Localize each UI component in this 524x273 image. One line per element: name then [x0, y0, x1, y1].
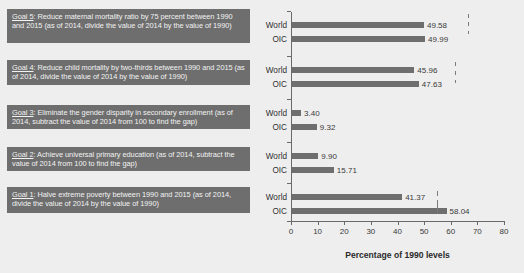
category-label-oic: OIC: [243, 207, 287, 216]
goal-description-text: : Reduce maternal mortality ratio by 75 …: [12, 12, 233, 30]
y-axis-group-tick: [287, 11, 291, 12]
goal-number-label: Goal 1: [12, 190, 33, 199]
bar-value-label: 47.63: [422, 80, 442, 89]
bar-goal-5-oic: [292, 36, 425, 42]
scan-artifact-mark: [437, 191, 438, 196]
goal-description-text: : Eliminate the gender disparity in seco…: [12, 108, 233, 126]
x-tick-label-70: 70: [473, 227, 482, 236]
goal-number-label: Goal 5: [12, 12, 33, 21]
goal-number-label: Goal 2: [12, 150, 33, 159]
y-axis-group-tick: [287, 56, 291, 57]
bar-goal-3-oic: [292, 124, 317, 130]
scan-artifact-mark: [437, 200, 438, 214]
x-tick-label-10: 10: [313, 227, 322, 236]
goal-description-text: : Reduce child mortality by two-thirds b…: [12, 63, 245, 81]
x-tick-40: [398, 221, 399, 225]
bar-value-label: 58.04: [450, 207, 470, 216]
x-tick-60: [451, 221, 452, 225]
goal-description-goal-3: Goal 3: Eliminate the gender disparity i…: [7, 105, 250, 129]
bar-goal-1-oic: [292, 208, 447, 214]
category-label-oic: OIC: [243, 35, 287, 44]
x-tick-30: [371, 221, 372, 225]
category-label-oic: OIC: [243, 80, 287, 89]
y-axis-group-tick: [287, 99, 291, 100]
scan-artifact-mark: [455, 80, 456, 83]
bar-value-label: 49.58: [427, 21, 447, 30]
x-tick-80: [504, 221, 505, 225]
chart-figure: Goal 5: Reduce maternal mortality ratio …: [0, 0, 524, 273]
scan-artifact-mark: [468, 31, 469, 34]
scan-artifact-mark: [468, 22, 469, 26]
bar-value-label: 15.71: [337, 166, 357, 175]
bar-goal-4-oic: [292, 81, 419, 87]
bar-goal-1-world: [292, 194, 402, 200]
goal-description-text: : Achieve universal primary education (a…: [12, 150, 235, 168]
y-axis-line: [291, 12, 292, 221]
bar-value-label: 9.32: [320, 123, 336, 132]
category-label-world: World: [243, 21, 287, 30]
category-label-oic: OIC: [243, 123, 287, 132]
goal-number-label: Goal 3: [12, 108, 33, 117]
bar-value-label: 49.99: [428, 35, 448, 44]
category-label-world: World: [243, 109, 287, 118]
bar-goal-3-world: [292, 110, 301, 116]
x-tick-label-50: 50: [420, 227, 429, 236]
y-axis-group-tick: [287, 142, 291, 143]
x-tick-label-0: 0: [289, 227, 293, 236]
x-tick-20: [344, 221, 345, 225]
bar-value-label: 41.37: [405, 193, 425, 202]
scan-artifact-mark: [468, 14, 469, 18]
scan-artifact-mark: [455, 71, 456, 75]
bar-goal-2-world: [292, 153, 318, 159]
x-axis-title: Percentage of 1990 levels: [291, 250, 504, 260]
bar-goal-5-world: [292, 22, 424, 28]
bar-value-label: 3.40: [304, 109, 320, 118]
bar-value-label: 9.90: [321, 152, 337, 161]
category-label-oic: OIC: [243, 166, 287, 175]
y-axis-group-tick: [287, 183, 291, 184]
bar-goal-4-world: [292, 67, 414, 73]
x-tick-label-60: 60: [446, 227, 455, 236]
bar-goal-2-oic: [292, 167, 334, 173]
category-label-world: World: [243, 66, 287, 75]
x-tick-label-20: 20: [340, 227, 349, 236]
category-label-world: World: [243, 193, 287, 202]
x-tick-label-30: 30: [366, 227, 375, 236]
goal-description-goal-2: Goal 2: Achieve universal primary educat…: [7, 147, 250, 171]
x-tick-70: [477, 221, 478, 225]
plot-area: 01020304050607080 49.5849.9945.9647.633.…: [291, 12, 504, 221]
goal-description-goal-1: Goal 1: Halve extreme poverty between 19…: [7, 187, 250, 213]
x-tick-label-80: 80: [500, 227, 509, 236]
x-tick-50: [424, 221, 425, 225]
bar-value-label: 45.96: [417, 66, 437, 75]
category-label-world: World: [243, 152, 287, 161]
goal-description-goal-5: Goal 5: Reduce maternal mortality ratio …: [7, 9, 250, 43]
x-tick-label-40: 40: [393, 227, 402, 236]
x-tick-10: [318, 221, 319, 225]
goal-description-text: : Halve extreme poverty between 1990 and…: [12, 190, 231, 208]
scan-artifact-mark: [455, 62, 456, 66]
goal-number-label: Goal 4: [12, 63, 33, 72]
goal-description-goal-4: Goal 4: Reduce child mortality by two-th…: [7, 60, 250, 85]
x-tick-0: [291, 221, 292, 225]
